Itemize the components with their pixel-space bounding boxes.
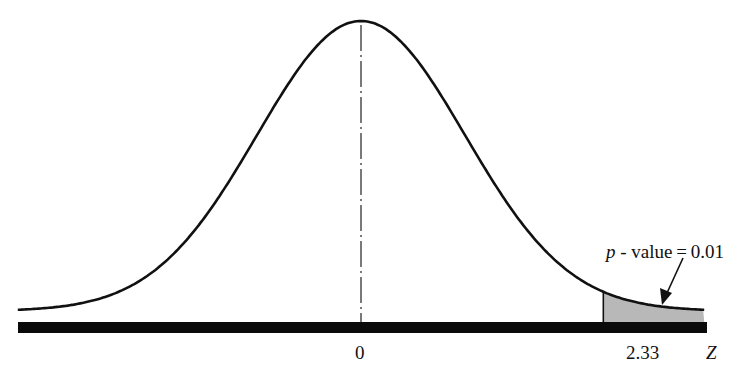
plot-area — [0, 0, 746, 377]
axis-label-z: Z — [706, 343, 717, 362]
normal-distribution-diagram: 0 2.33 Z p - value = 0.01 — [0, 0, 746, 377]
tick-label-zero: 0 — [355, 343, 365, 362]
arrow-icon — [660, 258, 683, 305]
z-axis-bar — [18, 322, 707, 333]
p-symbol: p — [606, 241, 616, 262]
tick-label-cutoff: 2.33 — [626, 343, 659, 362]
p-value-annotation: p - value = 0.01 — [606, 242, 724, 261]
p-value-text: - value = 0.01 — [616, 241, 725, 262]
